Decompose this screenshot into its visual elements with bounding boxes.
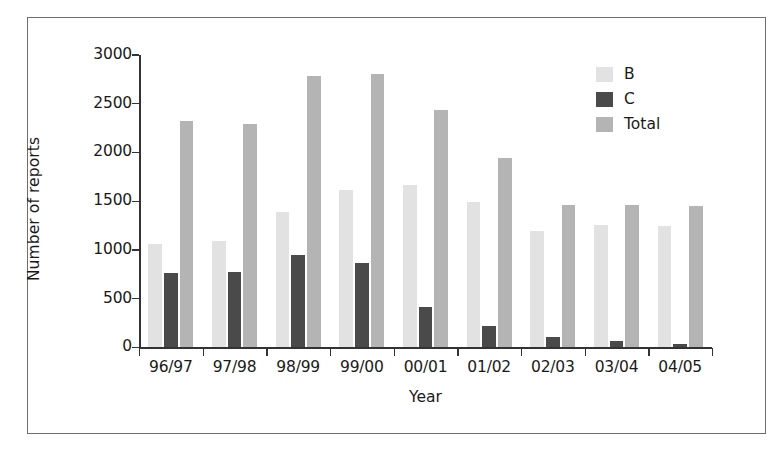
legend-label: Total [624, 117, 660, 133]
bar-group [266, 55, 330, 347]
bar-group [457, 55, 521, 347]
bar-total-03-04 [625, 205, 639, 347]
y-axis-tick [132, 54, 139, 55]
bar-group [139, 55, 203, 347]
bar-b-01-02 [467, 202, 481, 348]
bar-c-99-00 [355, 263, 369, 348]
legend-item-total: Total [596, 112, 726, 137]
bar-total-97-98 [243, 124, 257, 347]
legend-swatch-c-icon [596, 92, 613, 107]
bar-b-99-00 [339, 190, 353, 347]
y-axis-tick-label: 1000 [80, 242, 132, 258]
y-axis-tick-label: 1500 [80, 193, 132, 209]
chart-plot-area: 050010001500200025003000 96/9797/9898/99… [0, 0, 768, 457]
x-axis-tick [585, 348, 586, 356]
bar-group [203, 55, 267, 347]
x-axis-tick [394, 348, 395, 356]
bar-c-97-98 [228, 272, 242, 347]
y-axis-tick-label: 500 [80, 291, 132, 307]
legend-swatch-total-icon [596, 117, 613, 132]
x-axis-tick [457, 348, 458, 356]
bar-c-04-05 [673, 344, 687, 348]
x-axis-tick [712, 348, 713, 356]
bar-b-04-05 [658, 226, 672, 348]
x-axis-title: Year [139, 388, 712, 406]
bar-group [330, 55, 394, 347]
bar-group [394, 55, 458, 347]
bar-b-97-98 [212, 241, 226, 347]
bar-c-00-01 [419, 307, 433, 347]
bar-total-96-97 [180, 121, 194, 347]
bar-total-98-99 [307, 76, 321, 347]
bar-c-02-03 [546, 337, 560, 348]
y-axis-tick-label: 2000 [80, 144, 132, 160]
bar-total-99-00 [371, 74, 385, 347]
y-axis-tick [132, 298, 139, 299]
bar-b-96-97 [148, 244, 162, 347]
y-axis-tick [132, 249, 139, 250]
y-axis-title: Number of reports [25, 129, 43, 289]
legend-item-b: B [596, 62, 726, 87]
y-axis-tick-label: 0 [80, 339, 132, 355]
legend-item-c: C [596, 87, 726, 112]
bar-b-03-04 [594, 225, 608, 347]
bar-c-01-02 [482, 326, 496, 347]
bar-total-04-05 [689, 206, 703, 347]
y-axis-tick-label: 2500 [80, 96, 132, 112]
x-axis-tick [203, 348, 204, 356]
y-axis-tick [132, 152, 139, 153]
bar-total-00-01 [434, 110, 448, 348]
y-axis-tick [132, 201, 139, 202]
x-axis-tick [139, 348, 140, 356]
bar-group [521, 55, 585, 347]
bar-b-02-03 [530, 231, 544, 347]
bar-c-96-97 [164, 273, 178, 347]
x-axis-tick-label: 04/05 [640, 360, 720, 376]
bar-c-03-04 [610, 341, 624, 348]
bar-b-00-01 [403, 185, 417, 348]
legend-swatch-b-icon [596, 67, 613, 82]
legend-label: C [624, 92, 635, 108]
x-axis-tick [648, 348, 649, 356]
bar-total-02-03 [562, 205, 576, 348]
bar-b-98-99 [276, 212, 290, 347]
chart-legend: BCTotal [596, 62, 726, 137]
x-axis-tick [521, 348, 522, 356]
bar-total-01-02 [498, 158, 512, 347]
x-axis-tick [266, 348, 267, 356]
y-axis-tick-label: 3000 [80, 47, 132, 63]
x-axis-tick [330, 348, 331, 356]
y-axis-tick [132, 103, 139, 104]
legend-label: B [624, 67, 635, 83]
bar-c-98-99 [291, 255, 305, 348]
x-axis-line [139, 347, 712, 349]
y-axis-tick [132, 347, 139, 348]
